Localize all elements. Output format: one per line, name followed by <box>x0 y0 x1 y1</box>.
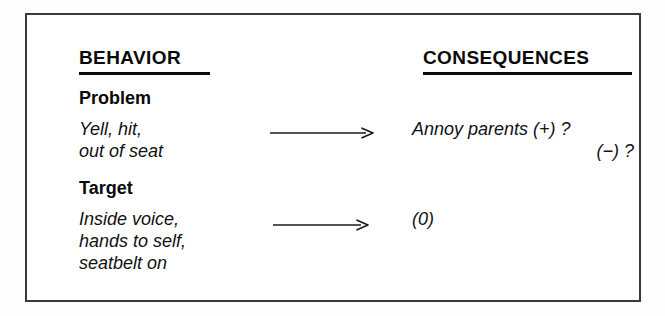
column-header-behavior: BEHAVIOR <box>79 48 210 75</box>
problem-consequence-line-1: Annoy parents (+) ? <box>412 118 634 140</box>
problem-behavior-line-2: out of seat <box>79 140 163 162</box>
target-behavior-line-1: Inside voice, <box>79 208 186 230</box>
problem-behavior-text: Yell, hit, out of seat <box>79 118 163 162</box>
target-behavior-line-2: hands to self, <box>79 230 186 252</box>
row-label-target: Target <box>79 179 133 197</box>
right-arrow-icon-target <box>273 218 369 232</box>
column-header-consequences: CONSEQUENCES <box>423 48 632 75</box>
problem-behavior-line-1: Yell, hit, <box>79 118 163 140</box>
problem-consequence-line-2: (−) ? <box>412 140 634 162</box>
behavior-header-underline <box>79 72 210 75</box>
column-header-consequences-label: CONSEQUENCES <box>423 47 589 68</box>
target-behavior-line-3: seatbelt on <box>79 252 186 274</box>
target-consequence-line-1: (0) <box>412 208 434 230</box>
target-consequence-text: (0) <box>412 208 434 230</box>
right-arrow-icon-problem <box>270 126 374 140</box>
consequences-header-underline <box>423 72 632 75</box>
diagram-frame: BEHAVIOR CONSEQUENCES Problem Yell, hit,… <box>25 13 641 302</box>
column-header-behavior-label: BEHAVIOR <box>79 47 181 68</box>
behavior-consequences-diagram: BEHAVIOR CONSEQUENCES Problem Yell, hit,… <box>0 0 665 316</box>
problem-consequence-text: Annoy parents (+) ? (−) ? <box>412 118 634 162</box>
target-behavior-text: Inside voice, hands to self, seatbelt on <box>79 208 186 274</box>
row-label-problem: Problem <box>79 89 151 107</box>
